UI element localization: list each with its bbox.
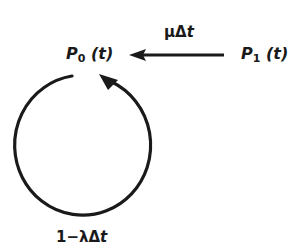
self-loop-rate-var: t — [100, 228, 107, 246]
state-p0-subscript: 0 — [78, 52, 86, 65]
state-p0-symbol: P — [66, 44, 78, 63]
self-loop-rate-prefix: 1−λΔ — [56, 228, 100, 246]
state-p1-subscript: 1 — [253, 52, 261, 65]
state-p1-symbol: P — [241, 44, 253, 63]
self-loop-rate-label: 1−λΔt — [56, 228, 107, 246]
state-p1-arg: (t) — [266, 44, 288, 63]
self-loop-arc — [15, 76, 151, 215]
state-p0: P0 (t) — [66, 44, 113, 65]
transition-rate-prefix: μΔ — [164, 23, 187, 41]
transition-rate-label: μΔt — [164, 23, 194, 41]
transition-rate-var: t — [187, 23, 194, 41]
state-p0-arg: (t) — [91, 44, 113, 63]
state-p1: P1 (t) — [241, 44, 288, 65]
diagram-canvas: P0 (t) P1 (t) μΔt 1−λΔt — [0, 0, 300, 252]
diagram-graphics — [0, 0, 300, 252]
self-loop-arrowhead-icon — [99, 74, 118, 90]
